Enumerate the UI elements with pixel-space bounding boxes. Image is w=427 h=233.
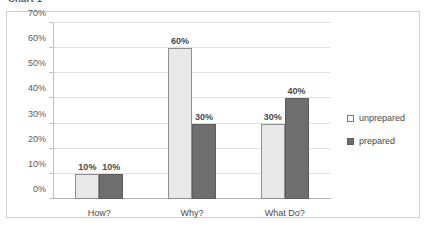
bar-group: 60%30% xyxy=(168,23,216,199)
y-axis-tick-mark xyxy=(49,47,53,48)
y-axis-tick-label: 40% xyxy=(28,83,46,93)
bar-group: 30%40% xyxy=(261,23,309,199)
y-axis-tick-mark xyxy=(49,148,53,149)
bar-unprepared-2[interactable]: 30% xyxy=(261,124,285,199)
bar-group: 10%10% xyxy=(75,23,123,199)
legend-item-label: prepared xyxy=(359,136,395,146)
chart-frame: 0%10%20%30%40%50%60%70% 10%10%60%30%30%4… xyxy=(6,11,420,218)
bar-value-label: 30% xyxy=(264,112,282,122)
y-axis-tick-label: 60% xyxy=(28,33,46,43)
bar-unprepared-1[interactable]: 60% xyxy=(168,48,192,199)
y-axis-tick-mark xyxy=(49,22,53,23)
legend-swatch-icon xyxy=(347,138,354,145)
y-axis-tick-label: 50% xyxy=(28,58,46,68)
chart-legend: unpreparedprepared xyxy=(347,113,405,159)
chart-title: Chart 1 xyxy=(8,0,42,5)
bar-prepared-1[interactable]: 30% xyxy=(192,124,216,199)
legend-item-prepared[interactable]: prepared xyxy=(347,136,405,146)
legend-swatch-icon xyxy=(347,115,354,122)
bar-prepared-2[interactable]: 40% xyxy=(285,98,309,199)
bar-prepared-0[interactable]: 10% xyxy=(99,174,123,199)
category-label-2: What Do? xyxy=(265,208,305,218)
bar-value-label: 10% xyxy=(102,162,120,172)
bar-value-label: 40% xyxy=(288,86,306,96)
y-axis-tick-label: 0% xyxy=(33,184,46,194)
y-axis-tick-mark xyxy=(49,97,53,98)
y-axis-tick-mark xyxy=(49,72,53,73)
y-axis-line xyxy=(53,23,54,199)
legend-item-label: unprepared xyxy=(359,113,405,123)
category-label-1: Why? xyxy=(180,208,203,218)
y-axis-tick-label: 10% xyxy=(28,159,46,169)
y-axis-tick-label: 70% xyxy=(28,8,46,18)
bar-value-label: 60% xyxy=(171,36,189,46)
category-label-0: How? xyxy=(88,208,111,218)
y-axis-tick-label: 20% xyxy=(28,134,46,144)
y-axis-tick-mark xyxy=(49,123,53,124)
y-axis-tick-label: 30% xyxy=(28,109,46,119)
bar-unprepared-0[interactable]: 10% xyxy=(75,174,99,199)
y-axis-tick-mark xyxy=(49,173,53,174)
plot-area: 0%10%20%30%40%50%60%70% 10%10%60%30%30%4… xyxy=(53,23,331,199)
bar-value-label: 30% xyxy=(195,112,213,122)
legend-item-unprepared[interactable]: unprepared xyxy=(347,113,405,123)
bar-value-label: 10% xyxy=(78,162,96,172)
